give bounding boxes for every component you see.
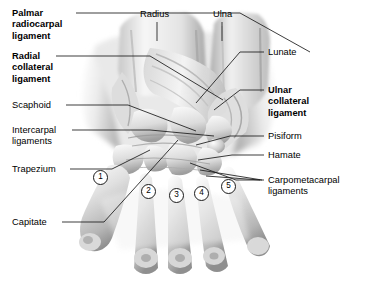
marker-metacarpal-4: 4 bbox=[194, 186, 209, 201]
label-palmar-radiocarpal-ligament: Palmar radiocarpal ligament bbox=[12, 8, 62, 42]
label-scaphoid: Scaphoid bbox=[12, 100, 51, 111]
figure-canvas: Palmar radiocarpal ligament Radial colla… bbox=[0, 0, 365, 289]
marker-metacarpal-5: 5 bbox=[221, 179, 236, 194]
label-ulna: Ulna bbox=[213, 9, 232, 20]
marker-metacarpal-3: 3 bbox=[169, 188, 184, 203]
label-radial-collateral-ligament: Radial collateral ligament bbox=[12, 51, 53, 85]
label-lunate: Lunate bbox=[268, 47, 297, 58]
label-carpometacarpal-ligaments: Carpometacarpal ligaments bbox=[268, 175, 340, 198]
label-trapezium: Trapezium bbox=[12, 164, 56, 175]
label-pisiform: Pisiform bbox=[268, 131, 302, 142]
label-hamate: Hamate bbox=[268, 150, 301, 161]
label-capitate: Capitate bbox=[12, 217, 47, 228]
marker-metacarpal-2: 2 bbox=[141, 184, 156, 199]
label-radius: Radius bbox=[140, 9, 169, 20]
label-intercarpal-ligaments: Intercarpal ligaments bbox=[12, 125, 56, 148]
label-ulnar-collateral-ligament: Ulnar collateral ligament bbox=[268, 85, 309, 119]
marker-metacarpal-1: 1 bbox=[93, 170, 108, 185]
